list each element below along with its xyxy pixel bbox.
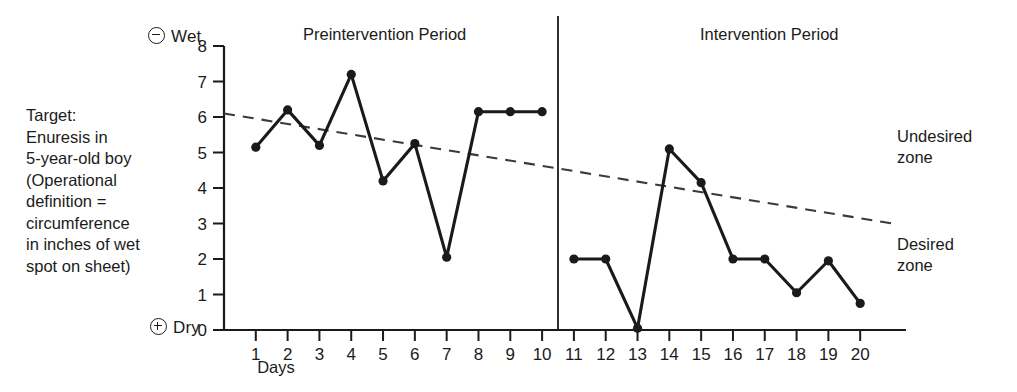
x-tick-label: 12 — [596, 345, 615, 364]
data-line-preintervention — [256, 74, 542, 257]
data-point — [760, 254, 769, 263]
data-point — [792, 288, 801, 297]
x-axis-ticks: 1234567891011121314151617181920 — [251, 330, 870, 364]
data-point — [537, 107, 546, 116]
y-tick-label: 7 — [198, 73, 207, 92]
x-tick-label: 18 — [787, 345, 806, 364]
x-tick-label: 10 — [533, 345, 552, 364]
x-tick-label: 3 — [315, 345, 324, 364]
y-axis-ticks: 012345678 — [198, 37, 224, 340]
y-tick-label: 1 — [198, 286, 207, 305]
x-tick-label: 6 — [410, 345, 419, 364]
data-point — [315, 141, 324, 150]
y-tick-label: 8 — [198, 37, 207, 56]
x-tick-label: 20 — [851, 345, 870, 364]
x-tick-label: 7 — [442, 345, 451, 364]
y-tick-label: 2 — [198, 250, 207, 269]
data-point — [474, 107, 483, 116]
chart-plot: 012345678 123456789101112131415161718192… — [0, 0, 1017, 392]
data-point — [506, 107, 515, 116]
x-tick-label: 8 — [474, 345, 483, 364]
x-tick-label: 11 — [565, 345, 583, 364]
y-tick-label: 4 — [198, 179, 207, 198]
data-line-intervention — [574, 149, 860, 328]
data-point — [665, 144, 674, 153]
x-tick-label: 4 — [347, 345, 356, 364]
x-tick-label: 16 — [723, 345, 742, 364]
x-tick-label: 17 — [755, 345, 774, 364]
data-point — [856, 299, 865, 308]
x-tick-label: 5 — [378, 345, 387, 364]
y-tick-label: 3 — [198, 215, 207, 234]
y-tick-label: 0 — [198, 321, 207, 340]
x-tick-label: 15 — [692, 345, 711, 364]
x-tick-label: 14 — [660, 345, 679, 364]
data-point — [633, 324, 642, 333]
data-point — [728, 254, 737, 263]
data-point — [251, 143, 260, 152]
x-tick-label: 1 — [251, 345, 260, 364]
data-point — [697, 178, 706, 187]
x-tick-label: 2 — [283, 345, 292, 364]
x-tick-label: 13 — [628, 345, 647, 364]
data-point — [601, 254, 610, 263]
data-point — [410, 139, 419, 148]
data-point — [442, 253, 451, 262]
data-point — [347, 70, 356, 79]
data-point — [378, 176, 387, 185]
data-point — [824, 256, 833, 265]
y-tick-label: 5 — [198, 144, 207, 163]
data-point — [569, 254, 578, 263]
x-tick-label: 19 — [819, 345, 838, 364]
figure-root: Target: Enuresis in 5-year-old boy (Oper… — [0, 0, 1017, 392]
y-tick-label: 6 — [198, 108, 207, 127]
x-tick-label: 9 — [506, 345, 515, 364]
data-point — [283, 105, 292, 114]
